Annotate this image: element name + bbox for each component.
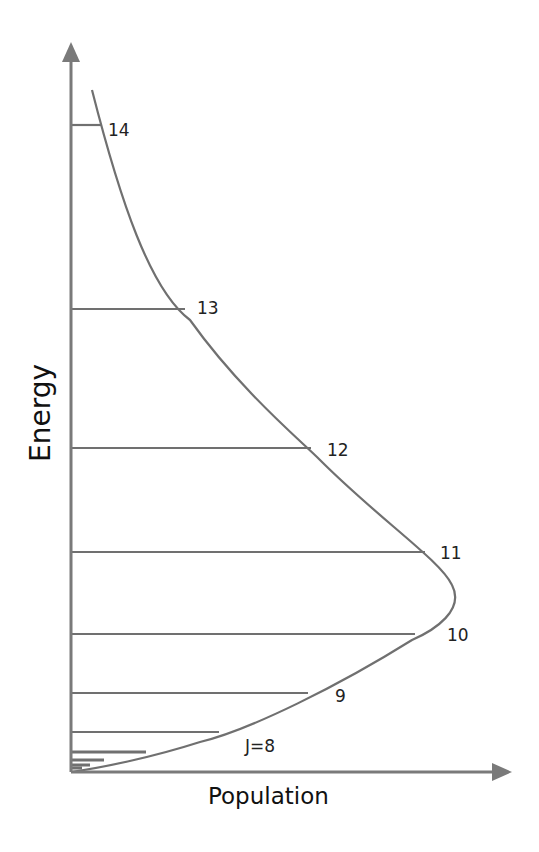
y-axis-label: Energy	[24, 364, 57, 462]
energy-level-label: 14	[108, 120, 130, 140]
energy-levels	[71, 125, 425, 768]
energy-axis-arrow-icon	[62, 42, 80, 62]
energy-level-label: J=8	[244, 736, 275, 756]
energy-level-label: 9	[335, 686, 346, 706]
energy-level-label: 12	[327, 440, 349, 460]
energy-level-label: 10	[447, 625, 469, 645]
population-axis-arrow-icon	[492, 763, 512, 781]
x-axis-label: Population	[208, 783, 329, 809]
population-envelope-curve	[71, 90, 455, 772]
energy-level-label: 13	[197, 298, 219, 318]
energy-population-diagram: 14131211109J=8 Energy Population	[0, 0, 539, 852]
energy-level-label: 11	[440, 543, 462, 563]
level-labels: 14131211109J=8	[108, 120, 469, 756]
